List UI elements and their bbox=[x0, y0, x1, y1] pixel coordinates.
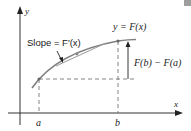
point-a bbox=[38, 78, 41, 81]
mean-value-diagram: y x a b y = F(x) Slope = F′(x) F(b) − F(… bbox=[0, 0, 191, 131]
curve-label: y = F(x) bbox=[112, 21, 147, 33]
tangent-point bbox=[76, 53, 79, 56]
y-axis-label: y bbox=[24, 6, 29, 16]
x-axis bbox=[8, 110, 183, 116]
rise-label: F(b) − F(a) bbox=[133, 57, 182, 69]
x-axis-label: x bbox=[173, 99, 178, 109]
tick-label-a: a bbox=[36, 117, 41, 128]
slope-label: Slope = F′(x) bbox=[27, 37, 81, 48]
tick-label-b: b bbox=[115, 117, 120, 128]
corner-block bbox=[184, 0, 191, 6]
rise-arrow-icon bbox=[126, 41, 131, 79]
y-axis-arrow-icon bbox=[17, 6, 23, 14]
x-axis-arrow-icon bbox=[175, 110, 183, 116]
point-b bbox=[117, 40, 120, 43]
y-axis bbox=[17, 6, 23, 125]
